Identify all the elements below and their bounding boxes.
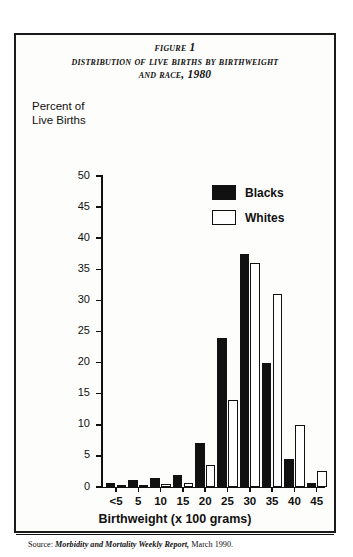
y-axis-tick-label: 15 <box>38 386 90 398</box>
bar-whites-5 <box>139 485 149 487</box>
y-axis-tick <box>96 486 102 488</box>
y-axis-tick-label: 20 <box>38 355 90 367</box>
x-axis-tick-label: 45 <box>297 495 337 507</box>
y-axis-tick-label: 25 <box>38 324 90 336</box>
y-axis-caption: Percent of Live Births <box>32 99 86 127</box>
legend-swatch-whites-icon <box>212 210 236 225</box>
y-axis-tick <box>96 237 102 239</box>
y-axis-tick <box>96 300 102 302</box>
bar-whites-45 <box>317 471 327 487</box>
y-axis-tick-label: 5 <box>38 448 90 460</box>
figure-title-line-3: and Race, 1980 <box>16 68 334 82</box>
bar-blacks-45 <box>307 483 317 487</box>
bar-whites-<5 <box>117 485 127 487</box>
source-date: March 1990. <box>191 540 233 549</box>
bar-blacks-35 <box>262 363 272 487</box>
x-axis-tick <box>271 487 273 492</box>
x-axis-tick <box>316 487 318 492</box>
bar-whites-30 <box>250 263 260 487</box>
legend-item-whites: Whites <box>212 210 284 225</box>
bar-blacks-15 <box>173 475 183 487</box>
y-axis-tick <box>96 269 102 271</box>
source-publication: Morbidity and Mortality Weekly Report, <box>55 540 189 549</box>
bar-blacks-40 <box>284 459 294 487</box>
x-axis-tick <box>294 487 296 492</box>
bar-whites-40 <box>295 425 305 487</box>
figure-title-line-1: Figure 1 <box>16 41 334 55</box>
bar-whites-10 <box>161 484 171 487</box>
y-axis-tick-label: 30 <box>38 293 90 305</box>
y-axis-tick <box>96 393 102 395</box>
bar-blacks-30 <box>240 254 250 487</box>
y-axis-tick-label: 0 <box>38 480 90 492</box>
x-axis-tick <box>204 487 206 492</box>
bar-blacks-5 <box>128 480 138 487</box>
bar-blacks-10 <box>150 478 160 487</box>
source-note: Source: Morbidity and Mortality Weekly R… <box>28 540 233 549</box>
x-axis-tick <box>138 487 140 492</box>
y-axis-tick <box>96 175 102 177</box>
figure-frame: Figure 1 Distribution of Live Births by … <box>14 33 336 533</box>
y-axis-caption-line-1: Percent of <box>32 99 86 113</box>
y-axis-tick <box>96 424 102 426</box>
bar-blacks-<5 <box>106 483 116 487</box>
x-axis-title: Birthweight (x 100 grams) <box>16 512 334 526</box>
figure-title-line-2: Distribution of Live Births by Birthweig… <box>16 55 334 69</box>
legend-label-whites: Whites <box>245 211 284 225</box>
x-axis-tick <box>227 487 229 492</box>
y-axis-tick-label: 45 <box>38 200 90 212</box>
chart-legend: Blacks Whites <box>212 185 284 235</box>
figure-title: Figure 1 Distribution of Live Births by … <box>16 41 334 82</box>
y-axis-tick-label: 10 <box>38 417 90 429</box>
bar-whites-20 <box>206 465 216 487</box>
legend-swatch-blacks-icon <box>212 185 236 200</box>
bar-blacks-20 <box>195 443 205 487</box>
bar-whites-15 <box>184 483 194 487</box>
y-axis-tick <box>96 206 102 208</box>
y-axis-caption-line-2: Live Births <box>32 113 86 127</box>
legend-item-blacks: Blacks <box>212 185 284 200</box>
y-axis-tick <box>96 362 102 364</box>
x-axis-tick <box>182 487 184 492</box>
y-axis-tick-label: 50 <box>38 169 90 181</box>
source-divider <box>16 534 334 535</box>
x-axis-tick <box>160 487 162 492</box>
source-label: Source: <box>28 540 53 549</box>
bar-blacks-25 <box>217 338 227 487</box>
legend-label-blacks: Blacks <box>245 186 284 200</box>
x-axis-tick <box>115 487 117 492</box>
bar-whites-25 <box>228 400 238 487</box>
y-axis-tick-label: 40 <box>38 231 90 243</box>
y-axis-tick <box>96 455 102 457</box>
bar-whites-35 <box>273 294 283 487</box>
y-axis-tick-label: 35 <box>38 262 90 274</box>
x-axis-tick <box>249 487 251 492</box>
y-axis-tick <box>96 331 102 333</box>
